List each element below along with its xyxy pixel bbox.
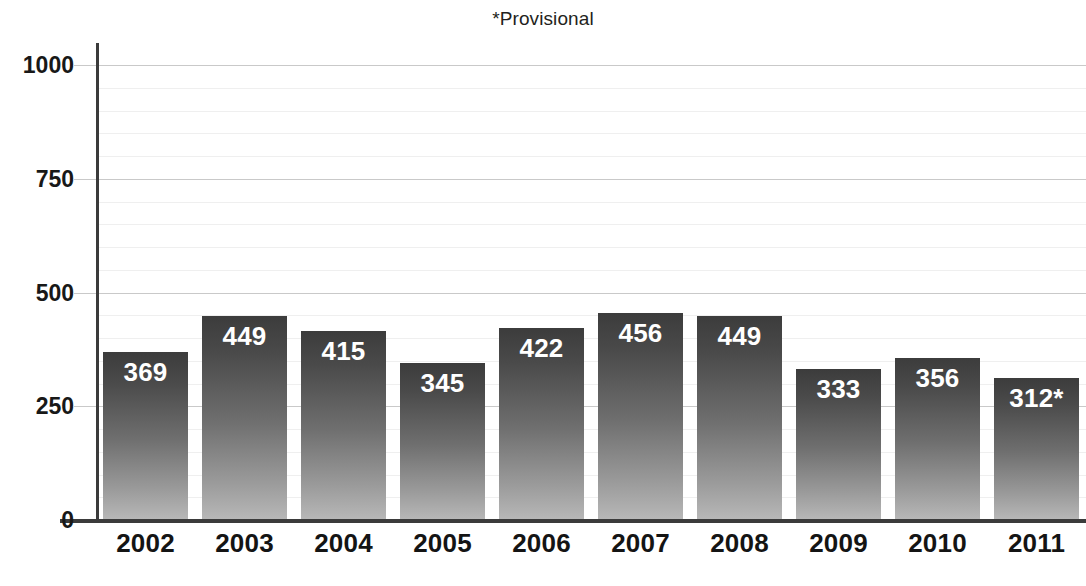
y-axis-tick-mark (74, 293, 96, 294)
x-axis-tick-labels: 2002200320042005200620072008200920102011 (96, 528, 1086, 576)
x-axis-tick-label: 2009 (789, 528, 888, 559)
y-axis-tick-label: 250 (0, 393, 74, 420)
bar[interactable]: 449 (202, 316, 287, 520)
y-axis-tick-label: 500 (0, 279, 74, 306)
x-axis-line (60, 519, 1086, 523)
bar[interactable]: 415 (301, 331, 386, 520)
bar-value-label: 456 (598, 319, 683, 347)
gridline-minor (96, 202, 1086, 203)
bar[interactable]: 449 (697, 316, 782, 520)
x-axis-tick-label: 2010 (888, 528, 987, 559)
bar-value-label: 449 (202, 322, 287, 350)
x-axis-tick-label: 2011 (987, 528, 1086, 559)
y-axis-tick-label: 750 (0, 165, 74, 192)
y-axis-tick-mark (74, 65, 96, 66)
x-axis-tick-label: 2005 (393, 528, 492, 559)
gridline-major (96, 65, 1086, 66)
y-axis-tick-mark (74, 406, 96, 407)
gridline-minor (96, 111, 1086, 112)
bar[interactable]: 356 (895, 358, 980, 520)
gridline-major (96, 293, 1086, 294)
bar-value-label: 345 (400, 369, 485, 397)
x-axis-tick-label: 2003 (195, 528, 294, 559)
x-axis-tick-label: 2006 (492, 528, 591, 559)
gridline-minor (96, 88, 1086, 89)
gridline-minor (96, 133, 1086, 134)
gridline-minor (96, 156, 1086, 157)
bar-value-label: 369 (103, 358, 188, 386)
bar[interactable]: 312* (994, 378, 1079, 520)
x-axis-tick-label: 2002 (96, 528, 195, 559)
bar[interactable]: 333 (796, 369, 881, 521)
y-axis-line (96, 43, 99, 523)
bar[interactable]: 456 (598, 313, 683, 520)
gridline-minor (96, 270, 1086, 271)
chart-title: *Provisional (0, 8, 1086, 30)
x-axis-tick-label: 2008 (690, 528, 789, 559)
x-axis-tick-label: 2007 (591, 528, 690, 559)
bar-value-label: 312* (994, 384, 1079, 412)
bar[interactable]: 422 (499, 328, 584, 520)
bar-value-label: 333 (796, 375, 881, 403)
bar-value-label: 356 (895, 364, 980, 392)
y-axis-tick-label: 1000 (0, 52, 74, 79)
bar-value-label: 415 (301, 337, 386, 365)
bar[interactable]: 345 (400, 363, 485, 520)
y-axis-tick-mark (74, 179, 96, 180)
bar[interactable]: 369 (103, 352, 188, 520)
bar-value-label: 422 (499, 334, 584, 362)
gridline-minor (96, 224, 1086, 225)
plot-area: 369449415345422456449333356312* (96, 65, 1086, 520)
bar-value-label: 449 (697, 322, 782, 350)
bar-chart-figure: *Provisional 369449415345422456449333356… (0, 0, 1086, 586)
y-axis-tick-label: 0 (0, 507, 74, 534)
gridline-major (96, 179, 1086, 180)
x-axis-tick-label: 2004 (294, 528, 393, 559)
gridline-minor (96, 247, 1086, 248)
